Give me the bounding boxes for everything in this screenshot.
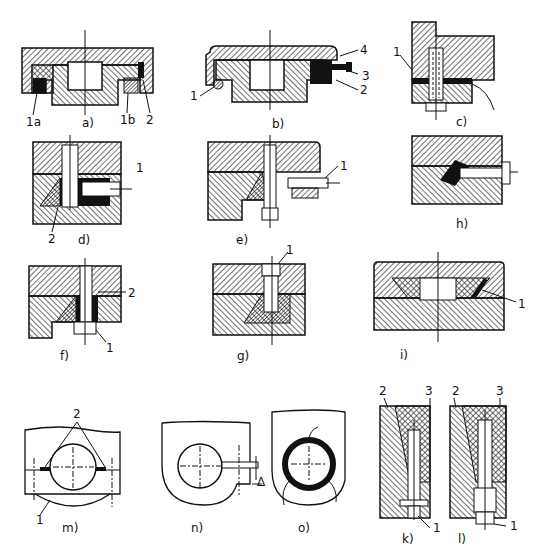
panel-e-drawing <box>208 135 340 228</box>
caption-n: n) <box>191 522 203 534</box>
panel-d-drawing <box>33 135 132 232</box>
callout-k-2: 2 <box>379 385 387 397</box>
callout-a-1b: 1b <box>120 114 135 126</box>
callout-f-1: 1 <box>106 342 114 354</box>
callout-n-delta: Δ <box>257 476 265 488</box>
caption-e: e) <box>236 234 248 246</box>
panel-g-drawing <box>213 252 305 345</box>
caption-i: i) <box>400 349 408 361</box>
callout-b-1: 1 <box>190 90 198 102</box>
caption-l: l) <box>458 533 466 545</box>
caption-b: b) <box>272 118 284 130</box>
caption-h: h) <box>456 218 468 230</box>
panel-c-drawing <box>400 22 494 120</box>
caption-o: o) <box>298 522 310 534</box>
panel-b-drawing <box>200 30 358 110</box>
callout-l-1: 1 <box>510 520 518 532</box>
callout-a-2: 2 <box>146 114 154 126</box>
caption-f: f) <box>60 350 69 362</box>
callout-m-1: 1 <box>36 514 44 526</box>
panel-k-drawing <box>380 398 430 528</box>
callout-c-1: 1 <box>393 46 401 58</box>
callout-d-2: 2 <box>48 233 56 245</box>
caption-a: a) <box>82 117 94 129</box>
callout-l-3: 3 <box>496 385 504 397</box>
panel-l-drawing <box>450 398 506 530</box>
callout-k-1: 1 <box>433 522 441 534</box>
callout-f-2: 2 <box>128 287 136 299</box>
callout-a-1a: 1a <box>26 116 41 128</box>
callout-d-1: 1 <box>136 162 144 174</box>
callout-m-2: 2 <box>73 408 81 420</box>
callout-k-3: 3 <box>425 385 433 397</box>
panel-i-drawing <box>374 252 516 342</box>
caption-c: c) <box>456 116 467 128</box>
panel-o-drawing <box>272 410 345 505</box>
panel-f-drawing <box>29 258 126 345</box>
technical-drawing-canvas <box>0 0 544 560</box>
caption-d: d) <box>78 234 90 246</box>
callout-e-1: 1 <box>340 160 348 172</box>
callout-b-2: 2 <box>360 84 368 96</box>
panel-m-drawing <box>25 422 120 515</box>
callout-l-2: 2 <box>452 385 460 397</box>
callout-b-4: 4 <box>360 44 368 56</box>
caption-k: k) <box>402 533 414 545</box>
callout-g-1: 1 <box>286 244 294 256</box>
panel-n-drawing <box>162 422 262 506</box>
caption-m: m) <box>62 522 78 534</box>
callout-b-3: 3 <box>362 70 370 82</box>
caption-g: g) <box>237 350 249 362</box>
panel-a-drawing <box>22 30 153 115</box>
callout-i-1: 1 <box>518 298 526 310</box>
panel-h-drawing <box>412 136 518 204</box>
